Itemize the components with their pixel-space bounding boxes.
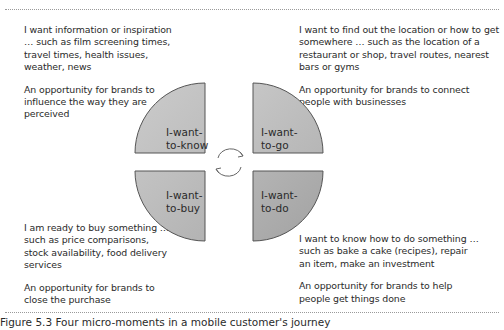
label-know-line2: to-know: [166, 139, 208, 152]
label-go: I-want- to-go: [261, 126, 297, 152]
micro-moments-diagram: [0, 0, 504, 330]
label-buy-line2: to-buy: [166, 202, 202, 215]
cycle-arrows-icon: [216, 149, 243, 176]
label-know-line1: I-want-: [166, 126, 208, 139]
label-do-line2: to-do: [261, 202, 297, 215]
label-buy-line1: I-want-: [166, 189, 202, 202]
figure-caption: Figure 5.3 Four micro-moments in a mobil…: [0, 316, 330, 328]
label-go-line2: to-go: [261, 139, 297, 152]
label-know: I-want- to-know: [166, 126, 208, 152]
label-buy: I-want- to-buy: [166, 189, 202, 215]
bottom-divider: [5, 312, 499, 313]
label-do-line1: I-want-: [261, 189, 297, 202]
label-go-line1: I-want-: [261, 126, 297, 139]
label-do: I-want- to-do: [261, 189, 297, 215]
